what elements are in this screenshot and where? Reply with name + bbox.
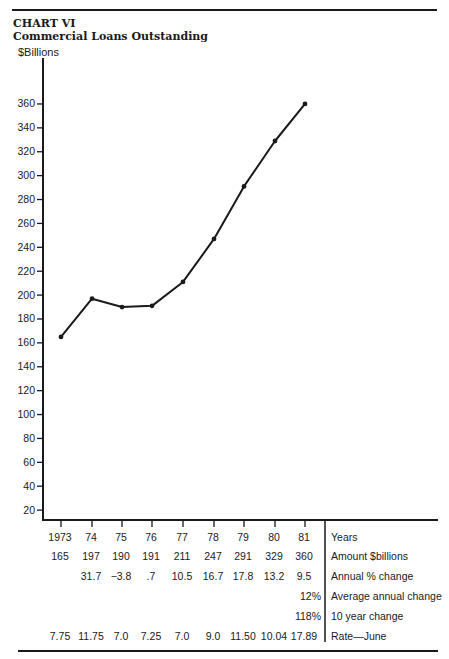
table-row-label: Amount $billions [331,550,408,562]
table-year: 76 [145,531,157,543]
table-year: 75 [115,531,127,543]
y-tick-label: 120 [17,384,35,396]
data-point [90,296,95,301]
table-rate-june: 7.0 [114,630,129,642]
table-row-label: Average annual change [331,590,442,602]
table-rate-june: 11.50 [230,630,256,642]
y-tick-label: 20 [23,504,35,516]
y-tick-label: 280 [17,193,35,205]
table-rate-june: 7.0 [175,630,190,642]
table-rate-june: 7.25 [141,630,162,642]
table-year: 80 [268,531,280,543]
table-amount: 360 [295,550,313,562]
table-annual-change: 17.8 [233,570,254,582]
table-annual-change: 10.5 [172,570,193,582]
table-rate-june: 17.89 [291,630,317,642]
y-tick-label: 180 [17,312,35,324]
y-tick-label: 80 [23,432,35,444]
table-ten-year-change: 118% [295,610,321,622]
table-rate-june: 11.75 [78,630,104,642]
y-tick-label: 360 [17,97,35,109]
table-row-label: Rate—June [331,630,387,642]
y-tick-label: 200 [17,289,35,301]
data-point [273,139,278,144]
y-tick-label: 60 [23,456,35,468]
data-point [303,102,308,107]
y-tick-label: 240 [17,241,35,253]
series-line [61,104,305,337]
table-year: 81 [298,531,310,543]
y-tick-label: 260 [17,217,35,229]
table-annual-change: 13.2 [264,570,285,582]
table-row-label: Annual % change [331,570,413,582]
table-rate-june: 7.75 [50,630,71,642]
line-chart: 2040608010012014016018020022024026028030… [0,0,449,659]
y-tick-label: 40 [23,480,35,492]
table-year: 74 [85,531,97,543]
table-year: 77 [176,531,188,543]
table-amount: 191 [142,550,160,562]
table-annual-change: 31.7 [81,570,102,582]
table-annual-change: .7 [147,570,156,582]
table-annual-change: 16.7 [203,570,224,582]
table-amount: 197 [82,550,100,562]
table-amount: 190 [112,550,130,562]
data-point [120,305,125,310]
data-point [150,303,155,308]
table-row-label: 10 year change [331,610,404,622]
table-amount: 329 [265,550,283,562]
data-point [212,237,217,242]
table-amount: 291 [234,550,252,562]
y-tick-label: 160 [17,336,35,348]
table-rate-june: 9.0 [206,630,221,642]
y-tick-label: 140 [17,360,35,372]
table-annual-change: −3.8 [111,570,132,582]
y-tick-label: 340 [17,121,35,133]
data-point [59,335,64,340]
bottom-rule [18,650,438,652]
table-year: 1973 [48,531,72,543]
data-point [242,184,247,189]
y-tick-label: 320 [17,145,35,157]
y-tick-label: 220 [17,265,35,277]
table-year: 78 [207,531,219,543]
table-amount: 247 [204,550,222,562]
table-year: 79 [237,531,249,543]
y-tick-label: 300 [17,169,35,181]
table-rate-june: 10.04 [261,630,287,642]
y-tick-label: 100 [17,408,35,420]
table-amount: 211 [174,550,191,562]
table-amount: 165 [51,550,69,562]
table-annual-change: 9.5 [297,570,312,582]
data-point [181,280,186,285]
table-row-label: Years [331,531,357,543]
table-average-annual-change: 12% [300,590,321,602]
